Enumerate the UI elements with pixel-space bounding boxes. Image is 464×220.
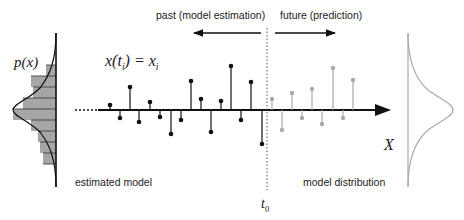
future-samples bbox=[270, 66, 355, 132]
stem-sample bbox=[158, 110, 163, 119]
x-axis-label: X bbox=[384, 136, 394, 154]
stem-sample bbox=[229, 64, 234, 110]
stem-sample bbox=[137, 110, 142, 124]
histogram-bar bbox=[31, 120, 56, 131]
px-label: p(x) bbox=[14, 54, 38, 71]
histogram-bar bbox=[33, 87, 56, 98]
stem-sample bbox=[239, 110, 244, 122]
stem-sample bbox=[169, 110, 174, 136]
stem-sample bbox=[118, 110, 123, 120]
stem-sample bbox=[300, 110, 304, 120]
stem-sample bbox=[148, 100, 153, 110]
model-distribution-curve bbox=[408, 33, 453, 187]
stem-sample bbox=[209, 110, 214, 134]
stem-sample bbox=[331, 66, 335, 110]
stem-sample bbox=[108, 103, 113, 110]
stem-sample bbox=[351, 78, 355, 110]
estimated-model-label: estimated model bbox=[75, 176, 152, 188]
stem-sample bbox=[219, 99, 224, 110]
past-samples bbox=[108, 64, 265, 147]
t0-label: t0 bbox=[261, 196, 269, 214]
histogram-bar bbox=[31, 76, 56, 87]
equation-label: x(ti) = xi bbox=[105, 52, 158, 72]
histogram-bar bbox=[23, 98, 56, 109]
model-distribution-label: model distribution bbox=[303, 176, 385, 188]
past-label: past (model estimation) bbox=[156, 9, 265, 21]
stem-sample bbox=[310, 87, 314, 110]
stem-sample bbox=[179, 110, 184, 122]
future-label: future (prediction) bbox=[280, 9, 362, 21]
stem-sample bbox=[128, 85, 133, 110]
stem-sample bbox=[290, 91, 294, 110]
stem-sample bbox=[260, 110, 265, 146]
stem-sample bbox=[199, 97, 204, 110]
diagram-canvas bbox=[0, 0, 464, 220]
stem-sample bbox=[320, 110, 324, 126]
stem-sample bbox=[270, 97, 274, 110]
stem-sample bbox=[280, 110, 284, 132]
histogram-bar bbox=[13, 109, 56, 120]
stem-sample bbox=[189, 79, 194, 110]
stem-sample bbox=[341, 110, 345, 120]
stem-sample bbox=[249, 80, 254, 110]
